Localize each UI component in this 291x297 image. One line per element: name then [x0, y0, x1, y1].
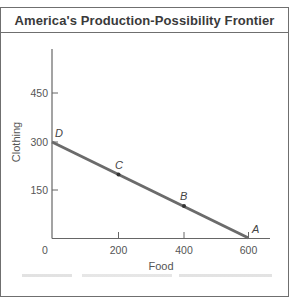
point-b-label: B: [180, 190, 187, 202]
point-c-marker: [117, 173, 121, 177]
y-axis-label: Clothing: [10, 122, 22, 162]
x-tick-label-400: 400: [175, 244, 193, 256]
point-a-label: A: [251, 223, 259, 235]
x-tick-label-200: 200: [110, 244, 128, 256]
point-d-label: D: [55, 127, 63, 139]
x-tick-label-600: 600: [240, 244, 258, 256]
ppf-line: [52, 142, 249, 238]
y-tick-label-300: 300: [30, 136, 48, 148]
x-axis-label: Food: [148, 260, 173, 272]
cropped-caption-text: [22, 274, 272, 277]
x-tick-label-0: 0: [42, 244, 48, 256]
y-tick-label-150: 150: [30, 184, 48, 196]
point-b-marker: [182, 204, 186, 208]
y-tick-label-450: 450: [30, 87, 48, 99]
point-c-label: C: [115, 159, 123, 171]
